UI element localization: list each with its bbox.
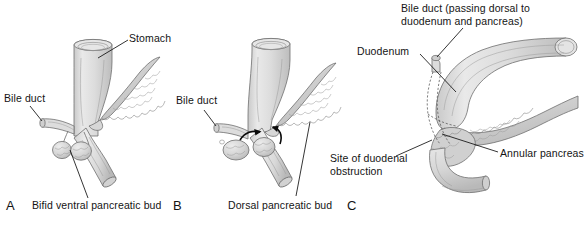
label-duodenum: Duodenum xyxy=(357,45,409,58)
panel-b-illustration xyxy=(204,38,341,196)
stomach-shape xyxy=(74,39,112,136)
label-bile-duct-b: Bile duct xyxy=(176,94,217,107)
caption-dorsal-pancreatic-bud: Dorsal pancreatic bud xyxy=(228,199,332,212)
leader-bile-duct-a xyxy=(30,106,42,121)
leader-bile-duct-b xyxy=(204,110,216,126)
leader-bile-duct-c xyxy=(437,28,463,57)
panel-letter-a: A xyxy=(6,199,15,212)
label-obstruction-line2: obstruction xyxy=(330,165,382,178)
label-bile-duct-a: Bile duct xyxy=(4,92,45,105)
duodenum-shape-b xyxy=(250,128,294,189)
ventral-bud-migrating-shape xyxy=(220,138,275,161)
bile-duct-shape xyxy=(40,119,74,134)
label-annular-pancreas: Annular pancreas xyxy=(500,147,584,160)
label-obstruction-line1: Site of duodenal xyxy=(330,152,408,165)
leader-dorsal-bud xyxy=(296,122,310,196)
label-bile-duct-c-line2: duodenum and pancreas) xyxy=(401,15,523,28)
panel-a-illustration xyxy=(30,39,165,198)
panel-c-illustration xyxy=(396,28,578,193)
panel-letter-b: B xyxy=(173,199,182,212)
label-bile-duct-c-line1: Bile duct (passing dorsal to xyxy=(401,2,530,15)
caption-bifid-ventral-pancreatic-bud: Bifid ventral pancreatic bud xyxy=(32,199,161,212)
label-stomach: Stomach xyxy=(129,32,171,45)
panel-letter-c: C xyxy=(347,199,356,212)
